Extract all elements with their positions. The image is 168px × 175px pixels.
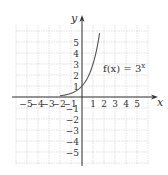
y-tick-label: −4: [66, 137, 80, 147]
function-curve: [60, 33, 100, 96]
function-label: f(x) = 3x: [103, 62, 145, 74]
x-tick-label: 1: [90, 99, 96, 109]
y-tick-label: 5: [73, 38, 79, 48]
y-tick-label: −2: [66, 115, 79, 125]
y-axis-label: y: [70, 12, 78, 25]
x-tick-label: 4: [123, 99, 129, 109]
x-axis-label: x: [157, 96, 164, 109]
y-tick-label: −1: [66, 104, 79, 114]
y-tick-label: −3: [66, 126, 80, 136]
exponential-graph: x y −5−4−3−2−11234554321−1−2−3−4−5 f(x) …: [0, 0, 168, 175]
x-tick-label: 3: [112, 99, 118, 109]
y-tick-label: 2: [73, 71, 79, 81]
y-tick-label: 4: [73, 49, 79, 59]
y-tick-label: −5: [66, 148, 80, 158]
x-tick-label: 5: [134, 99, 140, 109]
y-tick-label: 3: [73, 60, 79, 70]
x-tick-label: 2: [101, 99, 107, 109]
